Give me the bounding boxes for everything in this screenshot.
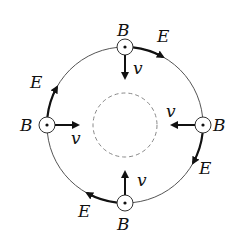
label-b-right: B bbox=[213, 117, 226, 134]
e-arc-top bbox=[133, 47, 163, 57]
b-out-of-page-icon-top bbox=[117, 39, 133, 55]
label-b-left: B bbox=[20, 117, 33, 134]
label-b-bottom: B bbox=[117, 216, 130, 233]
label-v-top: v bbox=[133, 60, 143, 77]
label-v-left: v bbox=[71, 130, 81, 147]
e-arc-left bbox=[47, 87, 57, 117]
label-e-top: E bbox=[157, 28, 169, 45]
e-arc-bottom bbox=[87, 193, 117, 203]
label-b-top: B bbox=[117, 22, 130, 39]
label-e-left: E bbox=[30, 74, 42, 91]
label-v-right: v bbox=[166, 103, 176, 120]
label-e-bottom: E bbox=[78, 203, 90, 220]
label-e-right: E bbox=[199, 160, 211, 177]
b-out-of-page-icon-right bbox=[195, 117, 211, 133]
b-out-of-page-icon-bottom bbox=[117, 195, 133, 211]
b-out-of-page-icon-left bbox=[39, 117, 55, 133]
label-v-bottom: v bbox=[137, 172, 147, 189]
diagram: B B B B E E E E v v v v bbox=[0, 0, 238, 245]
inner-dashed-circle bbox=[93, 93, 157, 157]
